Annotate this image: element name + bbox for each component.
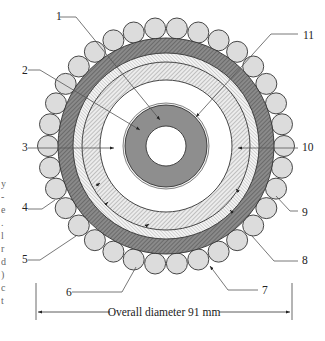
cable-cross-section-figure: 1234567891011 Overall diameter 91 mm y-e… [0,0,325,341]
armour-wire [123,249,144,270]
callout-label-1: 1 [56,10,62,22]
layer-bore [146,126,186,166]
armour-wire [188,249,209,270]
callout-label-6: 6 [66,286,72,298]
leader-line-6 [72,267,136,292]
leader-line-8 [252,236,298,261]
clipped-text-fragment: . [1,217,9,228]
armour-wire [40,114,61,135]
callout-label-11: 11 [303,29,314,41]
clipped-text-fragment: c [1,282,9,293]
leader-line-7 [210,266,258,290]
armour-wire [166,253,187,274]
armour-wire [40,157,61,178]
clipped-text-fragment: l [1,230,9,241]
armour-wire [45,93,66,114]
cable-section [38,18,295,274]
armour-wire [274,136,295,157]
clipped-text-fragment: r [1,243,9,254]
armour-wire [45,178,66,199]
callout-label-2: 2 [22,64,28,76]
clipped-text-fragment: t [1,295,9,306]
callout-label-3: 3 [22,141,28,153]
cable-diagram-svg: 1234567891011 Overall diameter 91 mm [0,0,325,341]
armour-wire [271,157,292,178]
leader-line-5 [28,236,76,260]
callout-label-8: 8 [302,254,308,266]
armour-wire [145,253,166,274]
callout-label-7: 7 [262,284,268,296]
dimension-line: Overall diameter 91 mm [36,283,292,320]
armour-wire [266,93,287,114]
armour-wire [123,22,144,43]
armour-wire [145,18,166,39]
armour-wire [38,136,59,157]
clipped-text-fragment: d [1,256,9,267]
callout-label-5: 5 [22,253,28,265]
armour-wire [166,18,187,39]
callout-label-4: 4 [22,201,28,213]
clipped-text-fragment: - [1,191,9,202]
armour-wire [271,114,292,135]
callout-label-9: 9 [302,206,308,218]
callout-label-10: 10 [302,141,314,153]
clipped-text-fragment: y [1,178,9,189]
clipped-text-fragment: e [1,204,9,215]
clipped-text-fragment: ) [1,269,9,280]
leader-line-4 [28,200,55,209]
dimension-label: Overall diameter 91 mm [108,306,221,318]
armour-wire [188,22,209,43]
